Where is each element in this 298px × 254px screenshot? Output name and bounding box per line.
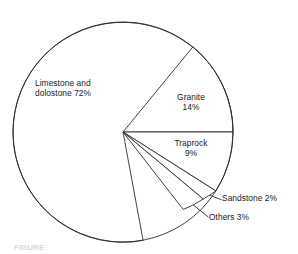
leader-line-others — [193, 205, 208, 217]
pie-label-granite-line2: 14% — [183, 102, 200, 112]
pie-chart-figure: Limestone anddolostone 72% Granite14% Tr… — [0, 0, 298, 254]
pie-label-traprock-line2: 9% — [185, 148, 197, 158]
pie-label-granite: Granite14% — [163, 92, 219, 113]
pie-label-traprock: Traprock9% — [160, 138, 222, 159]
pie-label-limestone-and-dolostone: Limestone anddolostone 72% — [35, 78, 91, 99]
pie-label-others: Others 3% — [209, 212, 249, 222]
pie-label-granite-line1: Granite — [177, 92, 205, 102]
pie-chart-graphic — [0, 0, 298, 254]
pie-label-limestone-line2: dolostone 72% — [35, 88, 91, 98]
pie-label-traprock-line1: Traprock — [174, 138, 207, 148]
pie-label-sandstone: Sandstone 2% — [222, 193, 277, 203]
pie-label-limestone-line1: Limestone and — [35, 78, 91, 88]
figure-caption: FIGURE — [14, 243, 44, 252]
